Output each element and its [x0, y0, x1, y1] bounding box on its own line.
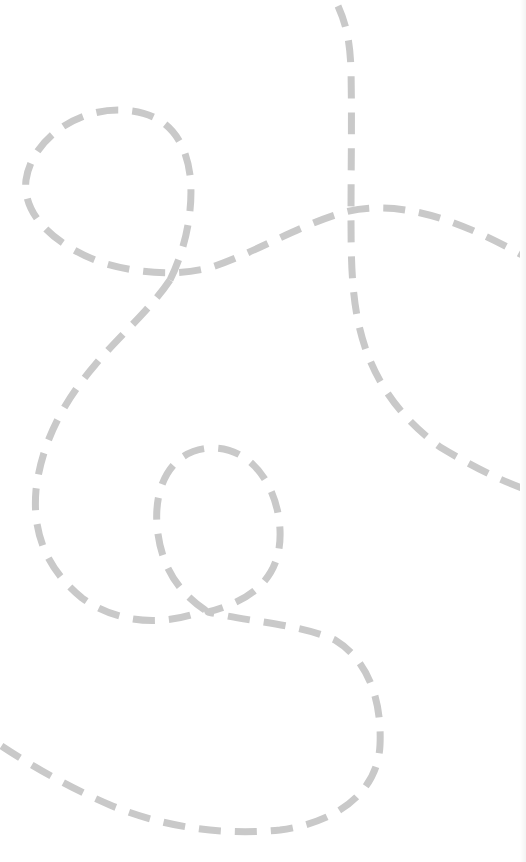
right-edge-shade [520, 0, 526, 862]
dashed-curve-swirl [0, 280, 380, 832]
dashed-curve-vertical [338, 6, 522, 488]
decorative-background [0, 0, 526, 862]
dashed-curves-illustration [0, 0, 526, 862]
dashed-curve-top-loop [26, 110, 522, 280]
